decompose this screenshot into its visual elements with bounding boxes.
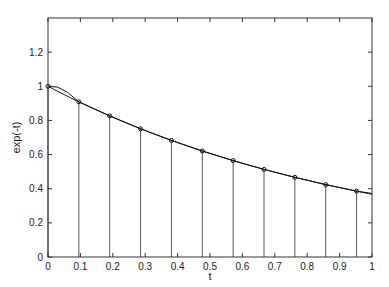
- stem-series: [48, 86, 357, 257]
- y-tick-label: 0.4: [29, 183, 43, 194]
- line-series: [46, 84, 372, 194]
- x-tick-label: 0.4: [171, 261, 185, 272]
- chart: 00.10.20.30.40.50.60.70.80.9100.20.40.60…: [0, 0, 389, 287]
- y-tick-label: 0: [37, 252, 43, 263]
- x-tick-label: 0.9: [333, 261, 347, 272]
- y-axis-label: exp(-t): [10, 122, 22, 154]
- x-tick-label: 1: [369, 261, 375, 272]
- exp-curve: [48, 86, 372, 194]
- x-tick-label: 0.3: [138, 261, 152, 272]
- x-tick-label: 0: [45, 261, 51, 272]
- y-tick-label: 0.8: [29, 115, 43, 126]
- x-axis-label: t: [208, 270, 211, 282]
- x-tick-label: 0.7: [268, 261, 282, 272]
- x-tick-label: 0.1: [73, 261, 87, 272]
- interpolant-curve: [48, 86, 372, 193]
- y-tick-label: 1.2: [29, 47, 43, 58]
- y-tick-label: 0.2: [29, 217, 43, 228]
- y-tick-label: 0.6: [29, 149, 43, 160]
- x-tick-label: 0.8: [300, 261, 314, 272]
- plot-frame: [48, 18, 372, 257]
- y-tick-label: 1: [37, 81, 43, 92]
- x-tick-label: 0.2: [106, 261, 120, 272]
- x-tick-label: 0.6: [235, 261, 249, 272]
